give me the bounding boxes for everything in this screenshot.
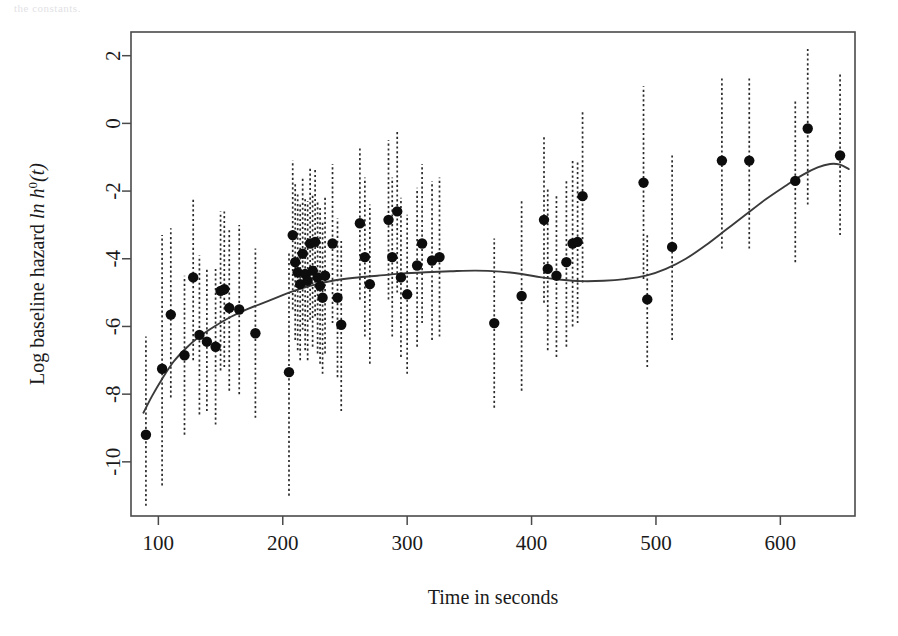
data-point	[717, 155, 727, 165]
data-point	[250, 328, 260, 338]
data-point	[332, 292, 342, 302]
y-tick-label: -10	[101, 448, 125, 476]
y-tick-label: 2	[101, 50, 125, 61]
data-point	[157, 364, 167, 374]
data-point	[327, 238, 337, 248]
x-axis-title: Time in seconds	[428, 586, 559, 608]
x-tick-label: 100	[143, 531, 175, 555]
axes-layer: 20-2-4-6-8-10100200300400500600	[101, 32, 855, 555]
data-point	[417, 238, 427, 248]
data-point	[188, 272, 198, 282]
data-point	[577, 191, 587, 201]
y-axis-title-prefix: Log baseline hazard	[26, 219, 49, 385]
data-point	[355, 218, 365, 228]
y-tick-label: -4	[101, 250, 125, 268]
data-point	[835, 150, 845, 160]
x-tick-label: 600	[765, 531, 797, 555]
data-point	[790, 176, 800, 186]
data-point	[302, 276, 312, 286]
data-point	[219, 284, 229, 294]
data-point	[561, 257, 571, 267]
data-point	[539, 215, 549, 225]
top-artifact-text: the constants.	[14, 2, 81, 14]
figure-container: the constants. 20-2-4-6-8-10100200300400…	[0, 0, 898, 636]
data-point	[210, 342, 220, 352]
y-tick-label: -2	[101, 182, 125, 200]
data-point	[288, 230, 298, 240]
data-point	[642, 294, 652, 304]
data-point	[383, 215, 393, 225]
data-point	[489, 318, 499, 328]
data-point	[290, 257, 300, 267]
y-tick-label: -8	[101, 385, 125, 403]
data-point	[396, 272, 406, 282]
x-tick-label: 200	[267, 531, 299, 555]
data-point	[572, 237, 582, 247]
x-tick-label: 400	[516, 531, 548, 555]
y-tick-label: 0	[101, 118, 125, 129]
data-point	[551, 270, 561, 280]
data-point	[744, 155, 754, 165]
data-point	[297, 248, 307, 258]
data-point	[543, 264, 553, 274]
data-point	[310, 237, 320, 247]
data-points-layer	[141, 123, 846, 440]
data-point	[284, 367, 294, 377]
y-axis-title-ln-h: ln h	[26, 188, 48, 219]
y-tick-label: -6	[101, 318, 125, 336]
data-point	[434, 252, 444, 262]
data-point	[317, 292, 327, 302]
baseline-hazard-scatter-plot: 20-2-4-6-8-10100200300400500600 Time in …	[0, 0, 898, 636]
data-point	[141, 430, 151, 440]
data-point	[179, 350, 189, 360]
data-point	[365, 279, 375, 289]
data-point	[234, 304, 244, 314]
errorbars-layer	[146, 49, 840, 506]
data-point	[412, 260, 422, 270]
data-point	[516, 291, 526, 301]
x-tick-label: 500	[640, 531, 672, 555]
data-point	[803, 123, 813, 133]
data-point	[166, 309, 176, 319]
data-point	[392, 206, 402, 216]
data-point	[387, 252, 397, 262]
data-point	[202, 336, 212, 346]
data-point	[336, 320, 346, 330]
data-point	[320, 270, 330, 280]
x-tick-label: 300	[391, 531, 423, 555]
data-point	[224, 303, 234, 313]
data-point	[638, 177, 648, 187]
y-axis-title: Log baseline hazard ln h0(t)	[25, 163, 50, 385]
y-axis-title-of-t: (t)	[26, 163, 49, 182]
data-point	[402, 289, 412, 299]
data-point	[667, 242, 677, 252]
data-point	[315, 281, 325, 291]
fit-line-layer	[143, 164, 848, 413]
fit-curve	[143, 164, 848, 413]
data-point	[360, 252, 370, 262]
